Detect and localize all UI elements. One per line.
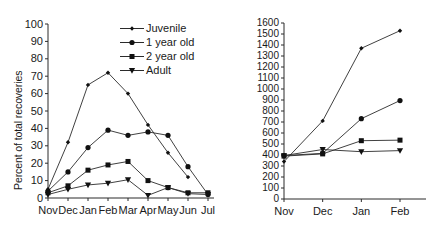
legend-item: Juvenile	[120, 22, 194, 35]
legend-marker-triangle-down-icon	[120, 64, 144, 77]
data-point-marker	[397, 98, 402, 103]
data-point-marker	[129, 68, 135, 74]
series-line	[284, 140, 400, 156]
legend-item: Adult	[120, 64, 194, 77]
series-line	[284, 31, 400, 162]
legend-marker-circle-icon	[120, 36, 144, 49]
legend-label: 2 year old	[146, 51, 194, 62]
data-point-marker	[359, 138, 364, 143]
data-point-marker	[66, 140, 70, 144]
plot-area-right	[222, 0, 426, 236]
data-point-marker	[398, 138, 403, 143]
chart-left-panel: Percent of total recoveries 010203040506…	[0, 0, 222, 236]
chart-right-panel: 0100200300400500600700800900100011001200…	[222, 0, 426, 236]
data-point-marker	[129, 40, 134, 45]
data-point-marker	[126, 159, 131, 164]
data-point-marker	[106, 162, 111, 167]
legend-label: Juvenile	[146, 23, 186, 34]
data-point-marker	[125, 133, 130, 138]
data-point-marker	[146, 178, 151, 183]
data-point-marker	[65, 169, 70, 174]
data-point-marker	[185, 164, 190, 169]
legend-item: 2 year old	[120, 50, 194, 63]
data-point-marker	[165, 133, 170, 138]
data-point-marker	[86, 168, 91, 173]
data-point-marker	[105, 128, 110, 133]
data-point-marker	[145, 129, 150, 134]
legend-item: 1 year old	[120, 36, 194, 49]
legend-label: 1 year old	[146, 37, 194, 48]
data-point-marker	[85, 145, 90, 150]
data-point-marker	[130, 54, 135, 59]
data-point-marker	[86, 83, 90, 87]
legend-marker-square-icon	[120, 50, 144, 63]
data-point-marker	[130, 26, 134, 30]
data-point-marker	[359, 116, 364, 121]
figure-root: Percent of total recoveries 010203040506…	[0, 0, 426, 236]
data-point-marker	[359, 46, 363, 50]
legend-label: Adult	[146, 65, 171, 76]
data-point-marker	[358, 149, 364, 155]
data-point-marker	[398, 29, 402, 33]
legend: Juvenile1 year old2 year oldAdult	[120, 22, 194, 78]
legend-marker-small-diamond-icon	[120, 22, 144, 35]
